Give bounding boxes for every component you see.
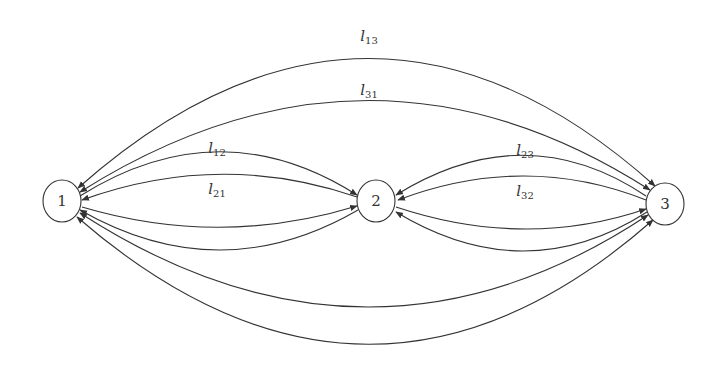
node-label: 3: [660, 195, 670, 213]
node-3: 3: [646, 183, 684, 225]
node-label: 1: [57, 192, 67, 210]
edge-lower-1-2-b: [80, 210, 358, 250]
node-label: 2: [371, 192, 381, 210]
edge-label-l12: l12: [208, 139, 226, 158]
edge-lower-1-2-a: [82, 206, 357, 227]
nodes-group: 123: [43, 180, 684, 225]
node-2: 2: [357, 180, 395, 222]
node-1: 1: [43, 180, 81, 222]
graph-canvas: 123 l13 l31 l12 l21 l23 l32: [0, 0, 723, 377]
edge-l13: [78, 58, 655, 188]
edge-label-l32: l32: [516, 182, 534, 201]
edge-label-l23: l23: [516, 141, 534, 160]
graph-svg: 123: [0, 0, 723, 377]
edge-lower-1-3-b: [77, 217, 653, 344]
edge-lower-2-3-a: [396, 207, 646, 229]
edge-label-l31: l31: [360, 81, 378, 100]
edge-label-l13: l13: [360, 27, 378, 46]
edge-label-l21: l21: [208, 180, 226, 199]
